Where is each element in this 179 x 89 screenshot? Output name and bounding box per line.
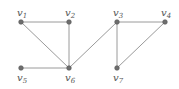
node-v3 [115,20,120,25]
edges [21,22,165,68]
node-labels: v1v2v3v4v5v6v7 [17,7,171,85]
node-v6 [67,66,72,71]
edge-v6-v3 [69,22,117,68]
label-v1: v1 [17,7,27,20]
node-v1 [19,20,24,25]
node-v5 [19,66,24,71]
label-v4: v4 [161,7,171,20]
edge-v1-v6 [21,22,69,68]
label-v2: v2 [65,7,76,20]
edge-v7-v4 [117,22,165,68]
label-v3: v3 [113,7,124,20]
node-v7 [115,66,120,71]
label-v7: v7 [113,72,124,85]
node-v4 [163,20,168,25]
label-v5: v5 [17,72,28,85]
graph-diagram: v1v2v3v4v5v6v7 [0,0,179,89]
label-v6: v6 [65,72,76,85]
node-v2 [67,20,72,25]
